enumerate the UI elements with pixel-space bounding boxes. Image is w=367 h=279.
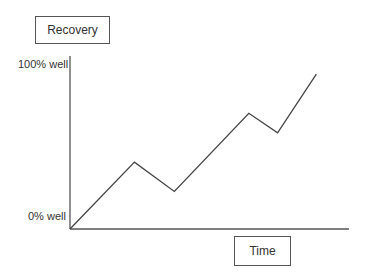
series-line-recovery [70,74,316,229]
line-chart [0,0,367,279]
